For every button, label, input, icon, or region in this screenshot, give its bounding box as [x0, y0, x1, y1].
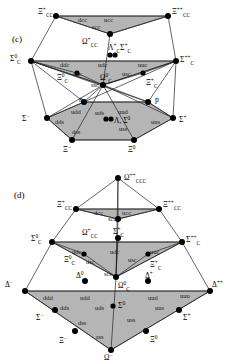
quark-scc: scc	[92, 24, 100, 31]
vertex-sigma-c-pp-d	[179, 239, 185, 245]
state-sigma-minus: Σ−	[22, 115, 29, 123]
state-sigma-c-0: Σ0C	[10, 55, 21, 63]
figure-canvas: (c)Ξ+CCΞ++CCΩ+CCΛ+CΣ+CΣ0CΣ++CΞ0CΞ+CΩ0Cnp…	[0, 0, 237, 364]
state-delta-pp: Δ++	[212, 281, 223, 289]
vertex-sigma-c-pp	[173, 58, 179, 64]
vertex-xi-c-plus	[140, 70, 145, 75]
edge-xi-cc-plus-to-sigma-c-0	[31, 16, 56, 61]
quark-uuu: uuu	[180, 293, 190, 300]
edge-xi-cc-pp-d-to-sigma-c-pp-d	[159, 209, 182, 242]
vertex-sigma-plus	[170, 115, 176, 121]
quark-ssc: ssc	[91, 82, 99, 89]
quark-udd-d: udd	[80, 295, 90, 302]
state-xi-cc-plusplus: Ξ++CC	[172, 8, 190, 16]
state-lambda-sigma-0: Λ, Σ0	[114, 117, 130, 125]
quark-uds: uds	[95, 110, 104, 117]
vertex-omega-c-0-d	[113, 274, 119, 280]
vertex-lambda-sigma0-a	[103, 116, 108, 121]
quark-dss: dss	[72, 129, 80, 136]
vertex-xi-cc-plus	[53, 13, 59, 19]
state-xi-c-0: Ξ0C	[57, 74, 68, 82]
state-lambda-c-sigma-c: Λ+CΣ+C	[108, 44, 131, 52]
vertex-sigma-minus-d	[52, 307, 58, 313]
state-omega-ccc: Ω++CCC	[124, 174, 146, 182]
state-xi-cc-plus-d: Ξ+CC	[57, 201, 72, 209]
vertex-sigma0-d	[110, 303, 115, 308]
state-proton: p	[155, 96, 159, 104]
state-xi-minus-d: Ξ−	[59, 337, 67, 345]
state-xi-0: Ξ0	[128, 146, 136, 154]
state-omega-c-0: Ω0C	[100, 74, 112, 82]
edge-sigma-c-pp-to-sigma-plus	[173, 61, 176, 118]
state-sigma-c-pp-d: Σ++C	[186, 236, 200, 244]
quark-uud-d: uud	[148, 295, 158, 302]
vertex-lambda-c-sigma-c-a	[107, 52, 112, 57]
quark-ddc-d: ddc	[72, 249, 81, 256]
quark-uus: uus	[151, 119, 160, 126]
panel-d	[22, 175, 213, 353]
vertex-sigma-plus-d	[176, 307, 182, 313]
quark-sss: sss	[96, 334, 104, 341]
vertex-xi-c-0-d	[81, 251, 86, 256]
edge-xi-cc-pp-to-sigma-c-pp	[168, 16, 176, 61]
vertex-sigma-c-0	[28, 58, 34, 64]
quark-ssc-d: scc	[104, 271, 112, 278]
quark-uds-d: uds	[95, 305, 104, 312]
edge-sigma-c-pp-d-to-delta-pp	[182, 242, 210, 291]
vertex-omega-cc-plus	[107, 31, 113, 37]
quark-uss-d: uss	[127, 317, 135, 324]
quark-dsc-d: dsc	[86, 259, 95, 266]
state-xi-cc-plus: Ξ+CC	[38, 8, 53, 16]
panel-caption-d: (d)	[14, 190, 25, 200]
quark-uuc: uuc	[138, 62, 147, 69]
quark-dss-d: dss	[78, 320, 86, 327]
state-xi-cc-pp-d: Ξ++CC	[163, 201, 181, 209]
panel-caption-c: (c)	[12, 34, 22, 44]
vertex-proton	[145, 99, 151, 105]
vertex-xi-0-d	[143, 328, 149, 334]
vertex-omega-ccc-pp	[115, 175, 121, 181]
state-xi-c-plus: Ξ+C	[146, 79, 157, 87]
vertex-xi-cc-pp	[165, 13, 171, 19]
quark-udc: udc	[98, 62, 107, 69]
vertex-sigma-minus	[44, 115, 50, 121]
quark-ddc: ddc	[60, 62, 69, 69]
quark-usc: usc	[122, 71, 131, 78]
vertex-lambda-sigma0-b	[108, 116, 113, 121]
vertex-xi-minus-d	[72, 328, 78, 334]
vertex-sigma-c-0-d	[49, 239, 55, 245]
edge-xi-cc-plus-d-to-sigma-c-0-d	[52, 209, 76, 242]
quark-dds: dds	[55, 119, 64, 126]
quark-ddd: ddd	[43, 295, 53, 302]
edge-omega-ccc-pp-to-xi-cc-plus-d	[76, 178, 118, 209]
state-xi-minus: Ξ−	[63, 146, 71, 154]
state-sigma-plus: Σ+	[179, 116, 186, 124]
state-neutron: n	[79, 96, 83, 104]
state-sigma0-d: Σ0	[118, 302, 125, 310]
state-delta-0: Δ0	[76, 272, 84, 280]
quark-uss: uss	[119, 126, 127, 133]
quark-dcc-d: dcc	[94, 210, 103, 217]
quark-uud: uud	[118, 109, 128, 116]
vertex-xi-cc-plus-d	[73, 206, 79, 212]
edge-sigma-c-0-d-to-delta-minus	[25, 242, 52, 291]
vertex-xi-0	[131, 137, 137, 143]
quark-scc-d: scc	[108, 216, 116, 223]
state-sigma-c-plus-d: Σ+C	[113, 228, 124, 236]
quark-uuc-d: uuc	[150, 249, 159, 256]
vertex-xi-minus	[69, 137, 75, 143]
quark-dds-d: dds	[60, 305, 69, 312]
quark-ucc: ucc	[104, 17, 113, 24]
vertex-omega-c-0	[100, 82, 106, 88]
state-delta-minus: Δ−	[5, 281, 13, 289]
vertex-delta-minus	[22, 288, 28, 294]
state-omega-c-0-d: Ω0C	[118, 282, 130, 290]
state-sigma-plus-d: Σ+	[183, 314, 190, 322]
state-sigma-c-plusplus: Σ++C	[180, 56, 194, 64]
quark-uus-d: uus	[155, 305, 164, 312]
quark-ucc-d: ucc	[122, 210, 131, 217]
quark-udd: udd	[71, 109, 81, 116]
vertex-xi-cc-pp-d	[156, 206, 162, 212]
state-xi-0-d: Ξ0	[150, 336, 158, 344]
quark-dcc: dcc	[78, 17, 87, 24]
